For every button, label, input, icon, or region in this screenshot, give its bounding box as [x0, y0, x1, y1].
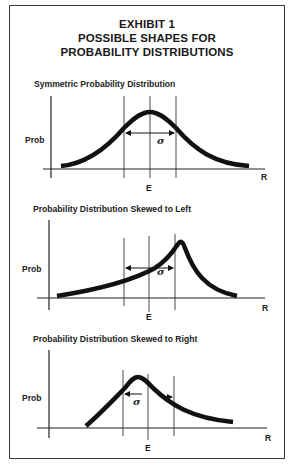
distribution-curve [86, 377, 233, 426]
distribution-curve [61, 112, 249, 166]
distribution-plots [0, 0, 294, 471]
panel-skewed-left [37, 220, 265, 312]
panel-skewed-right [37, 350, 267, 440]
distribution-curve [57, 242, 237, 296]
panel-symmetric [43, 96, 265, 178]
